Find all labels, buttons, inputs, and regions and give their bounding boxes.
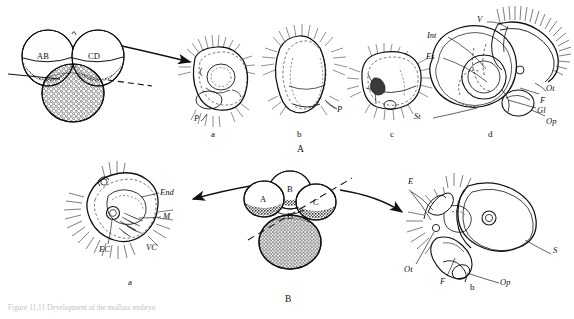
label-foot-B: F bbox=[440, 277, 445, 286]
label-mesoderm: M bbox=[163, 212, 170, 221]
label-prototroch-b: P bbox=[337, 105, 342, 114]
sublabel-A-d: d bbox=[488, 130, 493, 139]
panelA-stage-b-larva bbox=[261, 24, 347, 115]
label-ventral-cell: VC bbox=[146, 243, 157, 252]
label-gland: Gl bbox=[537, 106, 546, 115]
sublabel-A-a: a bbox=[211, 130, 215, 139]
label-cell-C: C bbox=[313, 198, 319, 207]
label-prototroch-a: P bbox=[194, 114, 199, 123]
label-cell-B: B bbox=[287, 185, 293, 194]
label-blastomere-CD: CD bbox=[88, 52, 100, 61]
sublabel-B-b: b bbox=[470, 283, 475, 292]
arrow-cells-to-stage-b bbox=[340, 190, 402, 212]
label-stomach: St bbox=[414, 112, 421, 121]
figure-illustration bbox=[0, 0, 574, 319]
arrow-blastomere-to-stage-a bbox=[122, 46, 190, 62]
panelA-blastomere-group bbox=[8, 30, 152, 122]
otocyst bbox=[516, 66, 524, 74]
label-blastomere-AB: AB bbox=[37, 52, 49, 61]
label-ectoderm-cell: EC bbox=[99, 245, 110, 254]
figure-plate: AB CD P P a b c d V Int Es St Ot F Gl Op… bbox=[0, 0, 574, 319]
label-otocyst-A: Ot bbox=[546, 84, 555, 93]
label-intestine: Int bbox=[427, 31, 436, 40]
label-operculum-B: Op bbox=[500, 278, 510, 287]
label-esophagus: Es bbox=[426, 52, 435, 61]
panelA-stage-a-larva bbox=[178, 35, 255, 127]
label-endoderm: End bbox=[160, 188, 174, 197]
axis-line-right bbox=[108, 80, 152, 86]
figure-caption: Figure 11.11 Development of the mollusc … bbox=[8, 303, 155, 312]
label-velum: V bbox=[477, 15, 482, 24]
label-shell: S bbox=[553, 246, 557, 255]
panelB-stage-b-veliger bbox=[406, 173, 551, 283]
panel-label-A: A bbox=[297, 145, 304, 155]
label-otocyst-B: Ot bbox=[404, 265, 413, 274]
panelA-stage-d-veliger bbox=[430, 6, 571, 118]
macromere-D bbox=[42, 64, 104, 122]
sublabel-A-c: c bbox=[390, 130, 394, 139]
panelB-blastomere-cluster bbox=[244, 171, 352, 269]
sublabel-B-a: a bbox=[128, 278, 132, 287]
label-cell-A: A bbox=[260, 195, 266, 204]
leader-P-stage-b bbox=[325, 100, 337, 109]
blastomere-D-macromere bbox=[259, 215, 321, 269]
label-foot-A: F bbox=[540, 96, 545, 105]
otocyst-b bbox=[432, 224, 439, 231]
panel-label-B: B bbox=[285, 295, 291, 305]
label-cell-D: D bbox=[287, 212, 293, 221]
sublabel-A-b: b bbox=[297, 130, 302, 139]
label-operculum-A: Op bbox=[546, 117, 556, 126]
panelA-stage-c-larva bbox=[347, 43, 434, 120]
label-eye: E bbox=[408, 177, 413, 186]
